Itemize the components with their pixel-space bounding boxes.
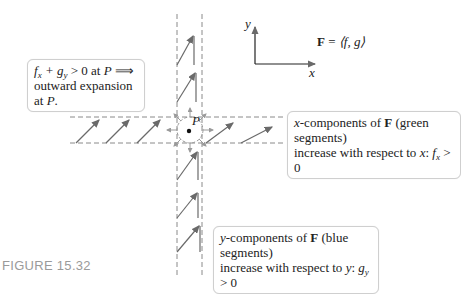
field-definition: F = ⟨f, g⟩ bbox=[317, 34, 365, 50]
vertical-band-arrows bbox=[177, 36, 200, 252]
divergence-callout: fx + gy > 0 at P ⟹ outward expansion at … bbox=[27, 59, 145, 112]
point-p-label: P bbox=[192, 113, 200, 129]
horizontal-band-arrows bbox=[76, 120, 272, 143]
point-p-dot bbox=[187, 129, 191, 133]
y-components-callout: y-components of F (blue segments) increa… bbox=[213, 226, 379, 294]
x-axis-label: x bbox=[309, 65, 315, 81]
figure-caption: FIGURE 15.32 bbox=[2, 258, 91, 273]
axes-indicator bbox=[255, 27, 315, 64]
y-axis-label: y bbox=[245, 16, 251, 32]
x-components-callout: x-components of F (green segments) incre… bbox=[287, 111, 461, 179]
